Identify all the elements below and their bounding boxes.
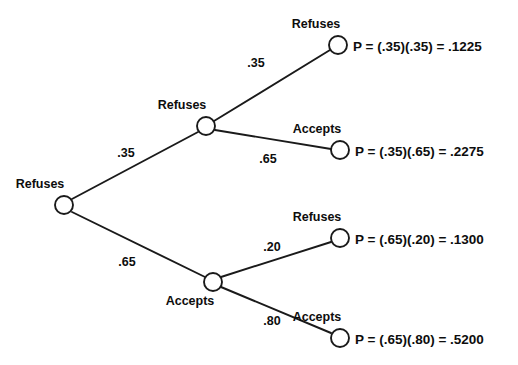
terminal-outcome-text: P = (.65)(.80) = .5200 [355,332,484,347]
root-node-label: Refuses [16,177,65,191]
internal-node-label: Accepts [166,294,215,308]
internal-node-circle [197,117,215,135]
branch-prob-refuses-refuses: .35 [247,56,264,70]
terminal-node-label: Accepts [293,122,342,136]
node-root-refuses[interactable]: Refuses [16,177,73,214]
terminal-node-label: Refuses [293,210,342,224]
probability-tree-diagram: Refuses Refuses Accepts .35 .65 Refuses … [0,0,518,365]
terminal-node-circle [331,229,349,247]
terminal-outcome-text: P = (.35)(.35) = .1225 [353,39,482,54]
node-accepts-level2[interactable]: Accepts [166,273,222,308]
node-refuses-level2[interactable]: Refuses [158,98,215,135]
terminal-node-circle [331,141,349,159]
terminal-outcome-text: P = (.35)(.65) = .2275 [355,144,484,159]
branch-root-to-refuses [72,132,198,199]
terminal-refuses-refuses[interactable]: Refuses P = (.35)(.35) = .1225 [292,17,483,54]
internal-node-circle [204,273,222,291]
branch-refuses-to-refuses [214,50,330,121]
branch-root-to-accepts [72,212,205,277]
terminal-refuses-accepts[interactable]: Accepts P = (.35)(.65) = .2275 [293,122,485,159]
branch-prob-root-upper: .35 [117,146,134,160]
branch-prob-accepts-refuses: .20 [263,240,280,254]
branch-prob-accepts-accepts: .80 [263,314,280,328]
terminal-node-label: Accepts [293,310,342,324]
terminal-node-circle [329,36,347,54]
branch-prob-root-lower: .65 [118,255,135,269]
terminal-node-circle [331,329,349,347]
root-node-circle [55,196,73,214]
branch-prob-refuses-accepts: .65 [259,152,276,166]
internal-node-label: Refuses [158,98,207,112]
terminal-node-label: Refuses [292,17,341,31]
terminal-accepts-refuses[interactable]: Refuses P = (.65)(.20) = .1300 [293,210,484,247]
terminal-outcome-text: P = (.65)(.20) = .1300 [355,232,484,247]
